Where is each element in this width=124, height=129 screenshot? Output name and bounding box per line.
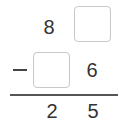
result-tens-digit: 2 (42, 101, 62, 121)
result-line (10, 94, 118, 96)
row1-ones-answer-box[interactable] (74, 6, 111, 42)
row2-tens-answer-box[interactable] (33, 52, 70, 88)
row1-tens-digit: 8 (39, 17, 59, 37)
minus-sign (13, 69, 27, 71)
result-ones-digit: 5 (83, 101, 103, 121)
row2-ones-digit: 6 (82, 60, 102, 80)
